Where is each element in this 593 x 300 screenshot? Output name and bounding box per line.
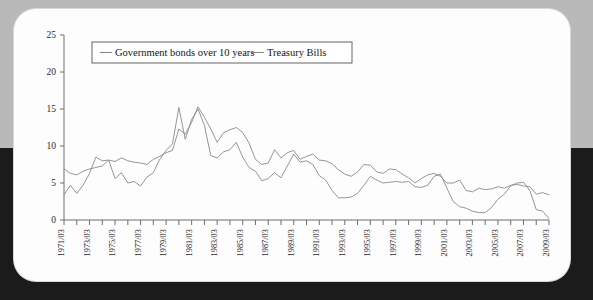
x-tick-label: 1973/03: [83, 229, 92, 256]
interest-rate-line-chart: 0510152025 1971/031973/031975/031977/031…: [14, 9, 570, 281]
x-axis: 1971/031973/031975/031977/031979/031981/…: [57, 220, 551, 256]
x-tick-label: 1987/03: [261, 229, 270, 256]
chart-card: 0510152025 1971/031973/031975/031977/031…: [14, 9, 570, 281]
y-tick-label: 20: [47, 67, 57, 77]
x-tick-label: 2001/03: [440, 229, 449, 256]
x-tick-label: 1981/03: [185, 229, 194, 256]
legend-label-treasury-bills: Treasury Bills: [267, 47, 326, 58]
page-background: 0510152025 1971/031973/031975/031977/031…: [0, 0, 593, 300]
y-tick-label: 5: [51, 178, 56, 188]
series-government-bonds: [64, 107, 549, 195]
data-series-group: [64, 107, 549, 219]
x-tick-label: 1977/03: [134, 229, 143, 256]
x-tick-label: 1983/03: [210, 229, 219, 256]
chart-legend: Government bonds over 10 yearsTreasury B…: [92, 42, 352, 63]
x-tick-label: 1999/03: [414, 229, 423, 256]
x-tick-label: 2005/03: [491, 229, 500, 256]
x-tick-label: 2003/03: [465, 229, 474, 256]
x-tick-label: 1989/03: [287, 229, 296, 256]
legend-label-government-bonds: Government bonds over 10 years: [115, 47, 254, 58]
y-tick-label: 10: [47, 141, 57, 151]
y-axis: 0510152025: [47, 30, 65, 225]
x-tick-label: 1979/03: [159, 229, 168, 256]
chart-figure: 0510152025 1971/031973/031975/031977/031…: [14, 9, 570, 281]
x-tick-label: 1991/03: [312, 229, 321, 256]
x-tick-label: 1993/03: [338, 229, 347, 256]
x-tick-label: 1971/03: [57, 229, 66, 256]
y-tick-label: 15: [47, 104, 57, 114]
y-tick-label: 25: [47, 30, 57, 40]
x-tick-label: 1985/03: [236, 229, 245, 256]
y-tick-label: 0: [51, 215, 56, 225]
x-tick-label: 2009/03: [542, 229, 551, 256]
x-tick-label: 2007/03: [516, 229, 525, 256]
x-tick-label: 1997/03: [389, 229, 398, 256]
x-tick-label: 1995/03: [363, 229, 372, 256]
x-tick-label: 1975/03: [108, 229, 117, 256]
